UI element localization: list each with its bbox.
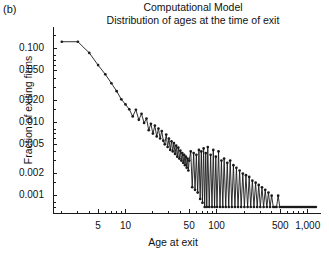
data-point-marker <box>254 181 257 184</box>
axes-layer <box>53 27 321 213</box>
data-point-marker <box>269 206 272 209</box>
data-point-marker <box>216 206 219 209</box>
data-point-marker <box>212 149 215 152</box>
data-point-marker <box>182 161 185 164</box>
data-point-marker <box>232 164 235 167</box>
y-tick-label: 0.100 <box>0 42 44 53</box>
data-point-marker <box>265 206 268 209</box>
x-tick-label: 1,000 <box>288 220 328 231</box>
data-point-marker <box>159 137 162 140</box>
data-point-marker <box>238 169 241 172</box>
data-point-marker <box>198 149 201 152</box>
data-point-marker <box>191 186 194 189</box>
data-point-marker <box>168 137 171 140</box>
data-point-marker <box>253 206 256 209</box>
data-point-marker <box>240 206 243 209</box>
data-point-marker <box>192 152 195 155</box>
data-point-marker <box>154 124 157 127</box>
data-point-marker <box>237 206 240 209</box>
data-point-marker <box>230 206 233 209</box>
data-point-marker <box>209 153 212 156</box>
data-point-marker <box>152 132 155 135</box>
y-tick-label: 0.020 <box>0 94 44 105</box>
data-point-marker <box>169 149 172 152</box>
data-point-marker <box>205 206 208 209</box>
data-point-marker <box>259 206 262 209</box>
data-point-marker <box>194 188 197 191</box>
data-point-marker <box>177 146 180 149</box>
data-point-marker <box>179 149 182 152</box>
data-point-marker <box>165 133 168 136</box>
data-point-marker <box>128 108 131 111</box>
data-point-marker <box>275 206 278 209</box>
data-point-marker <box>189 150 192 153</box>
y-tick-label: 0.005 <box>0 138 44 149</box>
data-point-marker <box>220 159 223 162</box>
data-point-marker <box>180 159 183 162</box>
data-point-marker <box>184 164 187 167</box>
data-point-marker <box>162 139 165 142</box>
data-series-layer <box>60 40 317 208</box>
data-point-marker <box>208 206 211 209</box>
data-point-marker <box>60 40 63 43</box>
data-point-marker <box>248 176 251 179</box>
data-point-marker <box>204 152 207 155</box>
y-tick-label: 0.001 <box>0 189 44 200</box>
data-point-marker <box>171 150 174 153</box>
data-point-marker <box>206 146 209 149</box>
data-point-marker <box>163 143 166 146</box>
data-point-marker <box>104 73 107 76</box>
data-point-marker <box>235 166 238 169</box>
data-point-marker <box>257 184 260 187</box>
data-point-marker <box>202 147 205 150</box>
data-point-marker <box>145 117 148 120</box>
figure-panel-b: (b) Computational Model Distribution of … <box>0 0 329 254</box>
y-tick-label: 0.010 <box>0 116 44 127</box>
data-point-marker <box>150 123 153 126</box>
data-point-marker <box>241 172 244 175</box>
data-point-marker <box>155 135 158 138</box>
x-tick-label: 100 <box>197 220 237 231</box>
data-point-marker <box>175 144 178 147</box>
data-point-marker <box>160 130 163 133</box>
chart-plot-area <box>0 0 329 254</box>
data-point-marker <box>277 194 280 197</box>
data-point-marker <box>226 161 229 164</box>
data-point-marker <box>251 179 254 182</box>
data-point-marker <box>173 142 176 145</box>
data-point-marker <box>213 206 216 209</box>
data-point-marker <box>221 206 224 209</box>
data-point-marker <box>110 82 113 85</box>
data-point-marker <box>166 146 169 149</box>
data-point-marker <box>214 155 217 158</box>
data-point-marker <box>264 188 267 191</box>
data-point-marker <box>217 150 220 153</box>
data-point-marker <box>196 191 199 194</box>
data-point-marker <box>223 157 226 160</box>
data-point-marker <box>219 206 222 209</box>
data-point-marker <box>185 166 188 169</box>
data-point-marker <box>124 103 127 106</box>
data-point-marker <box>199 198 202 201</box>
data-point-marker <box>88 52 91 55</box>
y-tick-label: 0.050 <box>0 64 44 75</box>
y-axis-title: Fraction of exiting firms <box>22 35 34 185</box>
data-point-marker <box>261 186 264 189</box>
data-point-marker <box>187 169 190 172</box>
y-tick-label: 0.002 <box>0 167 44 178</box>
data-point-marker <box>195 153 198 156</box>
data-point-marker <box>140 113 143 116</box>
x-axis-title: Age at exit <box>118 236 228 248</box>
data-point-marker <box>270 194 273 197</box>
data-point-marker <box>234 206 237 209</box>
data-point-marker <box>115 90 118 93</box>
data-point-marker <box>262 206 265 209</box>
data-point-marker <box>201 201 204 204</box>
data-point-marker <box>157 127 160 130</box>
data-point-marker <box>174 153 177 156</box>
data-point-marker <box>176 155 179 158</box>
data-point-marker <box>245 174 248 177</box>
data-point-marker <box>97 64 100 67</box>
x-tick-label: 10 <box>106 220 146 231</box>
data-point-marker <box>143 122 146 125</box>
